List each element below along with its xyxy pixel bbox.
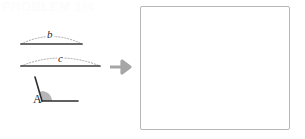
segment-c-label: c [57, 53, 64, 64]
arrow-right-glyph [110, 61, 130, 73]
segment-b-label: b [46, 29, 54, 40]
arrow-right-icon [108, 56, 134, 78]
angle-a-label: A [33, 93, 42, 105]
answer-canvas[interactable] [140, 6, 290, 130]
diagram-canvas: PROBLEM 1/4 b c A [0, 0, 305, 139]
